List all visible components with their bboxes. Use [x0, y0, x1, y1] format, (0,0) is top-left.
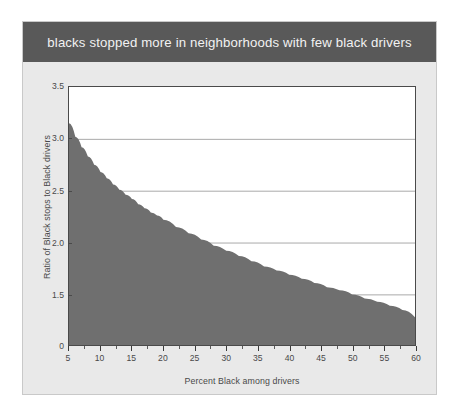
y-axis-tick-marks [68, 86, 74, 346]
figure-panel: blacks stopped more in neighborhoods wit… [22, 21, 437, 395]
chart-title-band: blacks stopped more in neighborhoods wit… [23, 22, 436, 62]
x-axis-tick-label: 35 [253, 353, 263, 363]
plot-wrapper: 01.52.02.53.03.5 51015202530354045505560… [23, 62, 438, 396]
x-axis-tick-mark [353, 346, 354, 351]
x-axis-tick-label: 60 [411, 353, 421, 363]
x-axis-tick-label: 10 [95, 353, 105, 363]
x-axis-minor-tick-mark [116, 346, 117, 349]
x-axis-minor-tick-mark [84, 346, 85, 349]
page-title: blacks stopped more in neighborhoods wit… [47, 35, 411, 50]
y-axis-tick-label: 0 [24, 341, 64, 351]
x-axis-tick-label: 20 [158, 353, 168, 363]
x-axis-tick-mark [226, 346, 227, 351]
x-axis-minor-tick-mark [274, 346, 275, 349]
x-axis-tick-mark [100, 346, 101, 351]
x-axis-tick-label: 45 [316, 353, 326, 363]
x-axis-minor-tick-mark [305, 346, 306, 349]
x-axis-minor-tick-mark [400, 346, 401, 349]
x-axis-tick-mark [258, 346, 259, 351]
x-axis-tick-label: 55 [380, 353, 390, 363]
x-axis-minor-tick-mark [337, 346, 338, 349]
plot-area [68, 86, 416, 346]
x-axis-tick-label: 40 [285, 353, 295, 363]
y-axis-tick-label: 3.5 [24, 81, 64, 91]
x-axis-tick-marks [68, 346, 416, 352]
y-axis-title: Ratio of Black stops to Black drivers [42, 117, 52, 297]
x-axis-tick-mark [195, 346, 196, 351]
x-axis-minor-tick-mark [242, 346, 243, 349]
x-axis-tick-label: 50 [348, 353, 358, 363]
x-axis-tick-label: 30 [221, 353, 231, 363]
y-axis-tick-mark [68, 295, 72, 296]
x-axis-minor-tick-mark [210, 346, 211, 349]
x-axis-minor-tick-mark [179, 346, 180, 349]
x-axis-title: Percent Black among drivers [68, 376, 416, 386]
area-series-fill [69, 87, 415, 345]
x-axis-tick-mark [384, 346, 385, 351]
x-axis-tick-mark [131, 346, 132, 351]
y-axis-tick-mark [68, 191, 72, 192]
x-axis-tick-mark [321, 346, 322, 351]
y-axis-tick-mark [68, 86, 72, 87]
x-axis-tick-mark [416, 346, 417, 351]
x-axis-minor-tick-mark [369, 346, 370, 349]
x-axis-tick-mark [68, 346, 69, 351]
x-axis-minor-tick-mark [147, 346, 148, 349]
y-axis-tick-mark [68, 243, 72, 244]
x-axis-tick-label: 15 [127, 353, 137, 363]
x-axis-tick-labels: 51015202530354045505560 [68, 353, 416, 367]
x-axis-tick-label: 5 [66, 353, 71, 363]
x-axis-tick-mark [163, 346, 164, 351]
x-axis-tick-label: 25 [190, 353, 200, 363]
x-axis-tick-mark [290, 346, 291, 351]
y-axis-tick-mark [68, 138, 72, 139]
area-path [69, 123, 415, 345]
